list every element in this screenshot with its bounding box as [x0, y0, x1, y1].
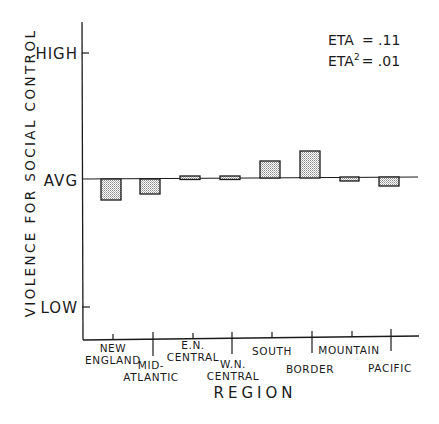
bar-pacific [379, 177, 399, 186]
y-tick-label-high: HIGH [35, 45, 78, 63]
x-axis-line [83, 336, 419, 340]
x-label-wn-central-1: W.N. [220, 358, 246, 370]
x-label-mid-atlantic-2: ATLANTIC [123, 371, 179, 383]
eta-squared-label: ETA2= .01 [328, 52, 400, 69]
bar-chart: HIGH AVG LOW VIOLENCE FOR SOCIAL CONTROL… [0, 0, 439, 424]
x-label-en-central-1: E.N. [181, 339, 205, 351]
bar-mid-atlantic [140, 179, 160, 194]
x-axis-title: REGION [214, 384, 297, 402]
x-category-labels: NEW ENGLAND MID- ATLANTIC E.N. CENTRAL W… [85, 339, 412, 383]
bars [101, 151, 399, 200]
x-label-south: SOUTH [252, 345, 292, 357]
x-label-border: BORDER [286, 363, 334, 375]
x-label-mid-atlantic-1: MID- [138, 359, 164, 371]
x-label-en-central-2: CENTRAL [167, 351, 219, 363]
eta-annotation: ETA= .11 ETA2= .01 [328, 32, 400, 69]
y-tick-label-avg: AVG [44, 172, 78, 190]
bar-new-england [101, 179, 121, 200]
x-label-new-england-2: ENGLAND [85, 354, 141, 366]
y-tick-label-low: LOW [41, 299, 78, 317]
eta-label: ETA= .11 [328, 32, 400, 48]
y-axis-line [82, 22, 83, 340]
bar-en-central [180, 176, 200, 180]
bar-border [300, 151, 320, 178]
bar-south [260, 161, 280, 178]
x-label-wn-central-2: CENTRAL [207, 370, 259, 382]
y-axis-title: VIOLENCE FOR SOCIAL CONTROL [22, 29, 38, 318]
avg-reference-line [82, 177, 418, 179]
x-label-new-england-1: NEW [100, 342, 127, 354]
bar-wn-central [220, 176, 240, 180]
x-label-mountain: MOUNTAIN [318, 344, 379, 356]
x-label-pacific: PACIFIC [368, 362, 412, 374]
bar-mountain [340, 177, 359, 181]
